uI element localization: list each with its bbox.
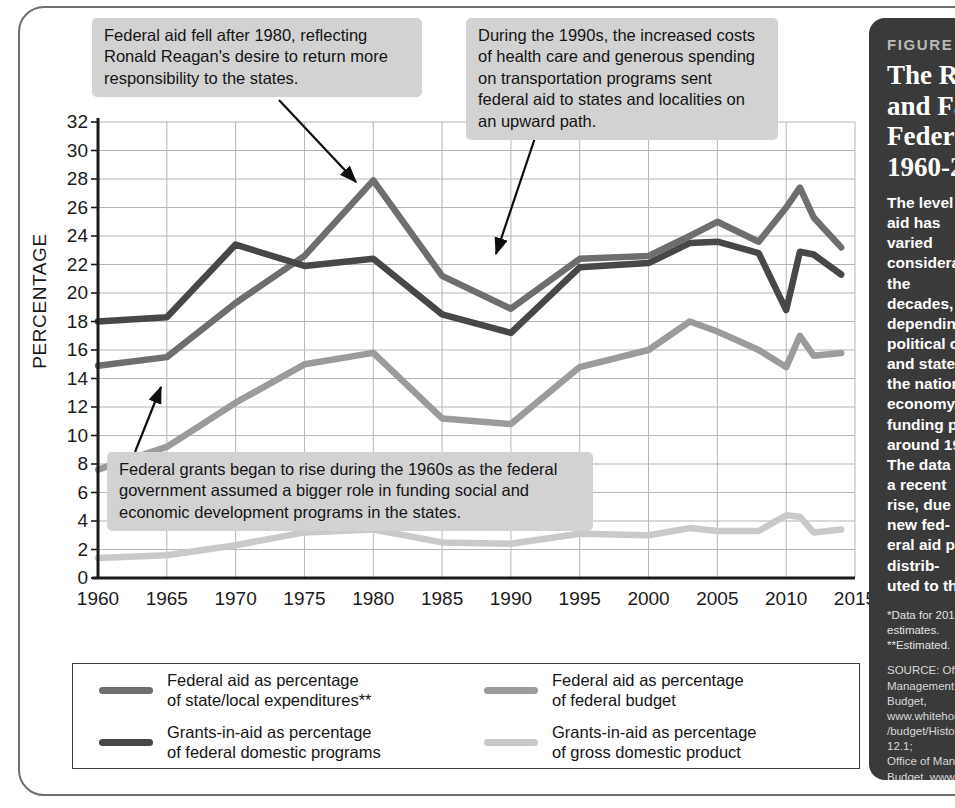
arrow-reagan xyxy=(279,100,356,182)
legend-item[interactable]: Grants-in-aid as percentage of gross dom… xyxy=(466,722,859,762)
series-line-3 xyxy=(98,322,841,470)
figure-sidebar: FIGURE The Rise and Fall of Federal Aid,… xyxy=(869,18,955,780)
legend-label: Grants-in-aid as percentage of gross dom… xyxy=(552,722,757,762)
annotation-sixties: Federal grants began to rise during the … xyxy=(107,452,593,531)
legend-swatch-icon xyxy=(99,739,153,746)
chart-legend: Federal aid as percentage of state/local… xyxy=(72,663,860,769)
figure-kicker: FIGURE xyxy=(887,36,955,53)
annotation-arrows xyxy=(135,100,543,452)
arrow-1960s xyxy=(135,387,161,452)
annotation-reagan: Federal aid fell after 1980, reflecting … xyxy=(92,18,422,97)
annotation-nineties: During the 1990s, the increased costs of… xyxy=(466,18,778,140)
legend-item[interactable]: Federal aid as percentage of federal bud… xyxy=(466,670,859,710)
legend-label: Grants-in-aid as percentage of federal d… xyxy=(167,722,381,762)
legend-item[interactable]: Grants-in-aid as percentage of federal d… xyxy=(73,722,466,762)
figure-description: The level of federal aid has varied cons… xyxy=(887,193,955,596)
legend-swatch-icon xyxy=(99,687,153,694)
figure-footnotes: *Data for 2014 are estimates. **Estimate… xyxy=(887,608,955,654)
legend-item[interactable]: Federal aid as percentage of state/local… xyxy=(73,670,466,710)
figure-page: PERCENTAGE 02468101214161820222426283032… xyxy=(0,0,955,808)
chart-container: PERCENTAGE 02468101214161820222426283032… xyxy=(0,0,880,640)
legend-swatch-icon xyxy=(484,739,538,746)
figure-title: The Rise and Fall of Federal Aid, 1960-2… xyxy=(887,60,955,182)
legend-label: Federal aid as percentage of state/local… xyxy=(167,670,372,710)
figure-source: SOURCE: Office of Management and Budget,… xyxy=(887,663,955,780)
legend-label: Federal aid as percentage of federal bud… xyxy=(552,670,744,710)
legend-swatch-icon xyxy=(484,687,538,694)
